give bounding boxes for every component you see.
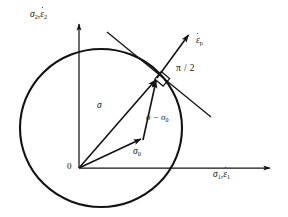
stress-vector-sigma (79, 80, 156, 168)
sigma-difference-subscript: 0 (165, 117, 168, 123)
y-axis-label: σ2,ε2 (30, 10, 47, 20)
y-axis-stress-symbol: σ (30, 9, 35, 19)
x-axis-stress-subscript: 1 (218, 173, 221, 180)
plastic-strain-rate-label: εp (196, 36, 203, 46)
yield-surface-diagram: σ2,ε2 σ1,ε1 0 σ σ0 σ − σ0 εp π / 2 (0, 0, 288, 217)
y-axis-stress-subscript: 2 (35, 13, 38, 20)
deviatoric-vector-sigma-minus-sigma-zero (143, 81, 156, 140)
diagram-canvas (0, 0, 288, 217)
back-stress-vector-sigma-zero (79, 139, 141, 168)
sigma-zero-symbol: σ (133, 146, 138, 156)
x-axis-label: σ1,ε1 (213, 170, 230, 180)
sigma-difference-symbols: σ − σ (146, 112, 165, 122)
sigma-symbol: σ (97, 100, 102, 110)
origin-label: 0 (67, 162, 72, 171)
right-angle-label: π / 2 (176, 64, 195, 74)
sigma-difference-label: σ − σ0 (146, 113, 168, 122)
y-axis-strain-rate-subscript: 2 (44, 13, 47, 20)
sigma-zero-subscript: 0 (138, 150, 141, 157)
plastic-strain-rate-subscript: p (200, 39, 203, 46)
sigma-zero-label: σ0 (133, 147, 141, 157)
x-axis-strain-rate-subscript: 1 (227, 173, 230, 180)
sigma-label: σ (97, 101, 102, 111)
x-axis-stress-symbol: σ (213, 169, 218, 179)
